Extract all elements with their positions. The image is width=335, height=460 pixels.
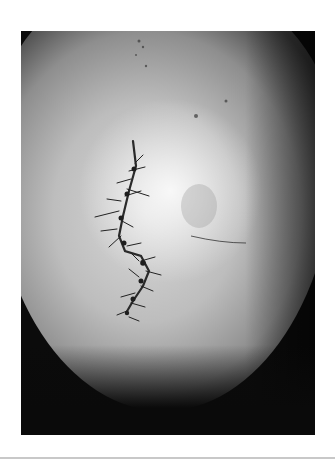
sutured-wound bbox=[21, 31, 315, 435]
scalp-specks bbox=[135, 40, 228, 119]
clinical-photo bbox=[21, 31, 315, 435]
bottom-rule bbox=[0, 457, 335, 459]
